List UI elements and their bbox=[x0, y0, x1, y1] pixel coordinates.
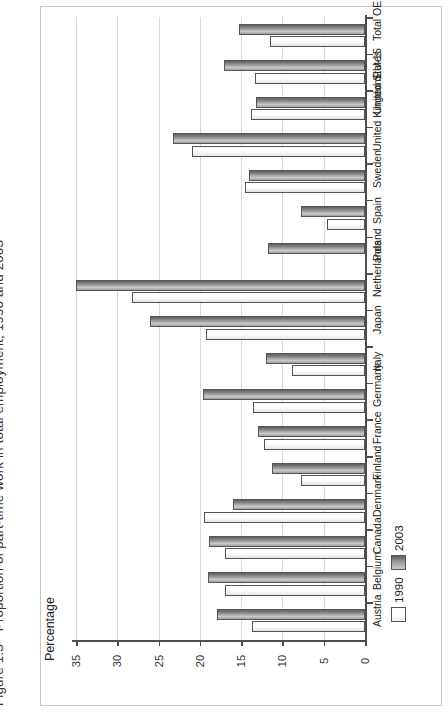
bar-2003-france bbox=[258, 426, 365, 437]
figure-title: Proportion of part-time work in total em… bbox=[0, 240, 6, 631]
bar-1990-united-states bbox=[251, 109, 365, 120]
bar-1990-france bbox=[264, 439, 365, 450]
legend-label-2003: 2003 bbox=[393, 525, 405, 551]
bar-2003-eu-15 bbox=[224, 60, 365, 71]
category-label-total-oecd: Total OECD bbox=[371, 0, 383, 41]
bar-2003-spain bbox=[301, 206, 365, 217]
bar-1990-eu-15 bbox=[255, 73, 365, 84]
bar-1990-denmark bbox=[204, 512, 365, 523]
bar-2003-belgium bbox=[208, 572, 365, 583]
axis-tick-label: 0 bbox=[359, 649, 371, 673]
category-label-belgium: Belgium bbox=[371, 552, 383, 590]
axis-tick-label: 35 bbox=[70, 649, 82, 673]
bar-2003-denmark bbox=[233, 499, 365, 510]
value-axis bbox=[365, 15, 367, 641]
bar-1990-japan bbox=[206, 329, 365, 340]
gridline bbox=[159, 17, 160, 647]
category-label-finland: Finland bbox=[371, 446, 383, 480]
bar-2003-total-oecd bbox=[239, 24, 365, 35]
gridline bbox=[200, 17, 201, 647]
bar-2003-united-kingdom bbox=[173, 133, 365, 144]
category-label-japan: Japan bbox=[371, 305, 383, 334]
gridline bbox=[117, 17, 118, 647]
category-label-poland: Poland bbox=[371, 228, 383, 261]
bar-2003-austria bbox=[217, 609, 365, 620]
axis-tick-label: 5 bbox=[318, 649, 330, 673]
axis-tick-label: 30 bbox=[111, 649, 123, 673]
gridline bbox=[76, 17, 77, 647]
bar-1990-italy bbox=[292, 365, 365, 376]
bar-1990-germany bbox=[253, 402, 365, 413]
chart-frame: 35302520151050PercentageAustriaBelgiumCa… bbox=[40, 6, 442, 706]
bar-2003-italy bbox=[266, 353, 365, 364]
bar-1990-finland bbox=[301, 475, 365, 486]
category-label-sweden: Sweden bbox=[371, 150, 383, 188]
bar-1990-belgium bbox=[225, 585, 365, 596]
figure-page: Figure 1.3Proportion of part-time work i… bbox=[0, 0, 448, 712]
bar-2003-sweden bbox=[249, 170, 365, 181]
figure-caption: Figure 1.3Proportion of part-time work i… bbox=[0, 0, 36, 712]
bar-1990-austria bbox=[252, 621, 365, 632]
category-axis bbox=[72, 640, 367, 642]
bar-1990-sweden bbox=[245, 182, 365, 193]
axis-tick-label: 25 bbox=[153, 649, 165, 673]
category-label-austria: Austria bbox=[371, 594, 383, 627]
bar-1990-spain bbox=[327, 219, 365, 230]
category-tick bbox=[366, 346, 373, 348]
bar-2003-united-states bbox=[256, 97, 365, 108]
axis-tick-label: 20 bbox=[194, 649, 206, 673]
bar-2003-japan bbox=[150, 316, 365, 327]
bar-1990-united-kingdom bbox=[192, 146, 365, 157]
legend-swatch-1990 bbox=[391, 607, 406, 622]
bar-1990-canada bbox=[225, 548, 365, 559]
bar-1990-total-oecd bbox=[270, 36, 365, 47]
bar-1990-netherlands bbox=[132, 292, 365, 303]
category-label-france: France bbox=[371, 411, 383, 444]
figure-number: Figure 1.3 bbox=[0, 644, 6, 706]
chart-plot-area: 35302520151050PercentageAustriaBelgiumCa… bbox=[41, 7, 441, 705]
bar-2003-germany bbox=[203, 389, 365, 400]
legend-label-1990: 1990 bbox=[393, 577, 405, 603]
category-label-eu-15: EU-15 bbox=[371, 48, 383, 78]
axis-tick-label: 10 bbox=[276, 649, 288, 673]
category-label-italy: Italy bbox=[371, 351, 383, 370]
axis-title: Percentage bbox=[43, 597, 57, 661]
axis-tick-label: 15 bbox=[235, 649, 247, 673]
bar-2003-poland bbox=[268, 243, 365, 254]
category-label-denmark: Denmark bbox=[371, 474, 383, 517]
legend-swatch-2003 bbox=[391, 555, 406, 570]
category-label-canada: Canada bbox=[371, 517, 383, 554]
bar-2003-finland bbox=[272, 463, 365, 474]
category-label-spain: Spain bbox=[371, 197, 383, 224]
bar-2003-canada bbox=[209, 536, 365, 547]
bar-2003-netherlands bbox=[76, 280, 365, 291]
